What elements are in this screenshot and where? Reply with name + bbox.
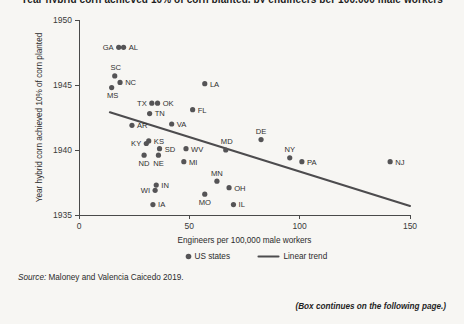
data-point-label-mo: MO — [199, 198, 211, 207]
data-point-label-ny: NY — [284, 145, 295, 154]
data-point-va — [169, 121, 174, 126]
data-point-label-al: AL — [129, 43, 138, 52]
data-point-label-nc: NC — [125, 78, 136, 87]
data-point-pa — [299, 159, 304, 164]
data-point-label-ia: IA — [158, 200, 166, 209]
chart-svg: 1935194019451950050100150Engineers per 1… — [0, 0, 464, 270]
x-axis-title: Engineers per 100,000 male workers — [178, 236, 312, 245]
data-point-nc — [117, 80, 122, 85]
data-point-label-wi: WI — [141, 186, 150, 195]
data-point-label-mn: MN — [211, 169, 223, 178]
data-point-mi — [181, 159, 186, 164]
data-point-label-wv: WV — [191, 145, 204, 154]
legend-label-linear-trend: Linear trend — [284, 252, 328, 261]
y-axis-title: Year hybrid corn achieved 10% of corn pl… — [35, 32, 44, 202]
x-tick-label: 0 — [77, 221, 82, 231]
box-continues-note: (Box continues on the following page.) — [295, 302, 446, 311]
data-point-al — [121, 45, 126, 50]
data-point-ok — [155, 101, 160, 106]
data-point-label-ok: OK — [163, 99, 174, 108]
data-point-mn — [214, 179, 219, 184]
data-point-label-nd: ND — [139, 159, 150, 168]
data-point-label-sd: SD — [165, 145, 176, 154]
data-point-in — [154, 183, 159, 188]
data-point-label-va: VA — [177, 120, 188, 129]
data-point-label-ks: KS — [154, 137, 164, 146]
data-point-oh — [226, 185, 231, 190]
data-point-nj — [388, 159, 393, 164]
data-point-ga — [116, 45, 121, 50]
data-point-label-oh: OH — [234, 184, 245, 193]
data-point-label-la: LA — [210, 80, 220, 89]
data-point-label-md: MD — [221, 137, 233, 146]
data-point-mo — [202, 192, 207, 197]
source-label: Source: — [18, 273, 46, 282]
data-point-nd — [141, 153, 146, 158]
data-point-label-il: IL — [239, 200, 245, 209]
x-tick-label: 150 — [403, 221, 417, 231]
data-point-wv — [183, 146, 188, 151]
x-tick-label: 50 — [185, 221, 195, 231]
data-point-label-ne: NE — [153, 159, 164, 168]
y-tick-label: 1950 — [53, 15, 72, 25]
data-point-ks — [146, 138, 151, 143]
legend-label-us-states: US states — [195, 252, 231, 261]
data-point-label-sc: SC — [110, 63, 121, 72]
data-point-label-in: IN — [161, 181, 169, 190]
y-tick-label: 1935 — [53, 210, 72, 220]
data-point-ne — [156, 153, 161, 158]
data-point-label-de: DE — [256, 127, 267, 136]
data-point-label-ms: MS — [107, 91, 118, 100]
data-point-ny — [287, 155, 292, 160]
data-point-label-mi: MI — [189, 158, 197, 167]
data-point-label-ar: AR — [137, 121, 148, 130]
y-tick-label: 1945 — [53, 80, 72, 90]
data-point-label-pa: PA — [307, 158, 318, 167]
data-point-md — [223, 147, 228, 152]
data-point-label-tn: TN — [155, 109, 165, 118]
data-point-label-ga: GA — [103, 43, 115, 52]
data-point-tn — [147, 111, 152, 116]
y-tick-label: 1940 — [53, 145, 72, 155]
data-point-label-fl: FL — [198, 106, 207, 115]
data-point-label-ky: KY — [131, 139, 141, 148]
source-note: Source: Maloney and Valencia Caicedo 201… — [18, 273, 184, 282]
data-point-wi — [153, 188, 158, 193]
data-point-sd — [157, 146, 162, 151]
data-point-label-tx: TX — [137, 99, 147, 108]
legend-marker-us-states — [186, 254, 192, 260]
data-point-ia — [150, 202, 155, 207]
data-point-il — [231, 202, 236, 207]
data-point-sc — [112, 73, 117, 78]
data-point-ar — [129, 123, 134, 128]
data-point-tx — [149, 101, 154, 106]
figure-page: Year hybrid corn achieved 10% of corn pl… — [0, 0, 464, 324]
data-point-de — [258, 137, 263, 142]
data-point-fl — [190, 107, 195, 112]
data-point-label-nj: NJ — [395, 158, 404, 167]
x-tick-label: 100 — [293, 221, 307, 231]
source-text: Maloney and Valencia Caicedo 2019. — [46, 273, 183, 282]
data-point-ms — [109, 85, 114, 90]
scatter-chart: 1935194019451950050100150Engineers per 1… — [0, 0, 464, 270]
data-point-la — [202, 81, 207, 86]
